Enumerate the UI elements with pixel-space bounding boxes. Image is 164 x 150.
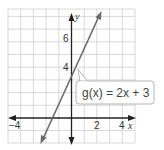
y-axis [69, 13, 75, 145]
x-tick-neg4: −4 [9, 120, 21, 131]
graph: −4 2 4 x 4 6 y g(x) = 2x + 3 [0, 0, 164, 150]
line-upper-arrow-icon [96, 11, 102, 20]
y-axis-up-arrow-icon [69, 13, 75, 21]
y-tick-6: 6 [63, 33, 69, 44]
y-axis-down-arrow-icon [69, 137, 75, 145]
x-tick-4: 4 [119, 120, 125, 131]
y-tick-4: 4 [63, 62, 69, 73]
x-axis-label: x [127, 120, 133, 131]
equation-callout: g(x) = 2x + 3 [76, 69, 154, 104]
equation-label: g(x) = 2x + 3 [82, 86, 150, 100]
x-tick-2: 2 [94, 120, 100, 131]
y-axis-label: y [74, 11, 80, 22]
